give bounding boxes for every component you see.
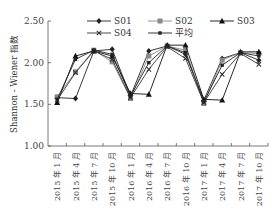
diamond-marker-icon <box>96 18 101 24</box>
x-tick-label: 2015 年 1 月 <box>52 152 62 201</box>
small-square-marker-icon <box>92 48 95 51</box>
x-marker-icon <box>220 72 224 76</box>
legend-item-S04: S04 <box>87 28 132 38</box>
x-tick-label: 2017 年 4 月 <box>217 152 227 201</box>
series-line <box>57 46 259 102</box>
small-square-marker-icon <box>220 63 223 66</box>
small-square-marker-icon <box>184 51 187 54</box>
legend-item-S01: S01 <box>87 16 132 26</box>
square-marker-icon <box>146 54 151 59</box>
legend: S01S02S03S04平均 <box>87 16 255 38</box>
legend-label: 平均 <box>175 27 193 38</box>
legend-item-S03: S03 <box>210 16 255 26</box>
series-S01 <box>55 43 262 103</box>
small-square-marker-icon <box>257 54 260 57</box>
x-tick-label: 2015 年 7 月 <box>89 152 99 201</box>
small-square-marker-icon <box>147 61 150 64</box>
y-tick-label: 2.00 <box>24 58 44 68</box>
x-tick-label: 2016 年 4 月 <box>144 152 154 201</box>
axes: 1.001.502.002.502015 年 1 月2015 年 4 月2015… <box>24 16 268 206</box>
legend-item-平均: 平均 <box>148 27 193 38</box>
x-tick-label: 2017 年 1 月 <box>199 152 209 201</box>
small-square-marker-icon <box>165 44 168 47</box>
series-line <box>57 47 259 103</box>
small-square-marker-icon <box>129 94 132 97</box>
x-tick-label: 2016 年 7 月 <box>162 152 172 201</box>
diamond-marker-icon <box>146 48 151 54</box>
legend-label: S04 <box>114 28 132 38</box>
x-tick-label: 2016 年 10 月 <box>181 152 191 206</box>
y-tick-label: 1.00 <box>24 141 44 151</box>
y-tick-label: 2.50 <box>24 16 44 26</box>
legend-label: S03 <box>237 16 255 26</box>
small-square-marker-icon <box>110 53 113 56</box>
small-square-marker-icon <box>158 31 161 34</box>
y-axis-label: Shannon - Wiener 指数 <box>9 35 19 133</box>
series-layer <box>54 42 262 106</box>
small-square-marker-icon <box>239 51 242 54</box>
x-tick-label: 2017 年 10 月 <box>254 152 264 206</box>
y-tick-label: 1.50 <box>24 99 44 109</box>
legend-item-S02: S02 <box>148 16 193 26</box>
legend-label: S02 <box>175 16 193 26</box>
square-marker-icon <box>220 58 225 63</box>
diamond-marker-icon <box>73 96 78 102</box>
diamond-marker-icon <box>110 46 115 52</box>
square-marker-icon <box>158 19 163 24</box>
line-chart: 1.001.502.002.502015 年 1 月2015 年 4 月2015… <box>0 0 276 219</box>
x-marker-icon <box>147 67 151 71</box>
x-tick-label: 2015 年 4 月 <box>71 152 81 201</box>
x-tick-label: 2015 年 10 月 <box>107 152 117 206</box>
legend-label: S01 <box>114 16 132 26</box>
small-square-marker-icon <box>202 100 205 103</box>
small-square-marker-icon <box>74 58 77 61</box>
x-tick-label: 2016 年 1 月 <box>126 152 136 201</box>
x-tick-label: 2017 年 7 月 <box>236 152 246 201</box>
small-square-marker-icon <box>55 98 58 101</box>
